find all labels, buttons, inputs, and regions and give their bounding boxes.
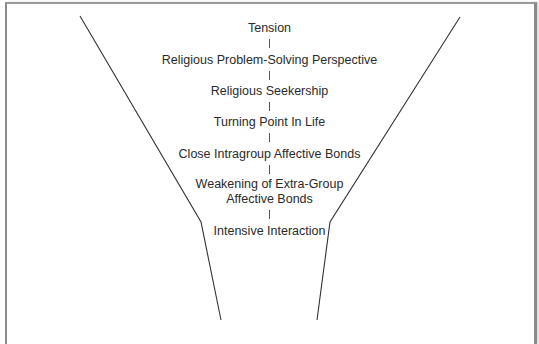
stage-close-intragroup-affective-bonds: Close Intragroup Affective Bonds (0, 147, 539, 162)
stage-intensive-interaction: Intensive Interaction (0, 224, 539, 239)
stage-connector (269, 39, 270, 48)
stage-connector (269, 102, 270, 111)
stage-connector (269, 71, 270, 80)
stage-religious-problem-solving-perspective: Religious Problem-Solving Perspective (0, 53, 539, 68)
stage-connector (269, 165, 270, 174)
stage-religious-seekership: Religious Seekership (0, 84, 539, 99)
stage-weakening-extra-group-line2: Affective Bonds (0, 192, 539, 207)
stage-connector (269, 133, 270, 142)
stage-weakening-extra-group-line1: Weakening of Extra-Group (0, 177, 539, 192)
stage-tension: Tension (0, 21, 539, 36)
stage-connector (269, 210, 270, 219)
stage-turning-point-in-life: Turning Point In Life (0, 115, 539, 130)
